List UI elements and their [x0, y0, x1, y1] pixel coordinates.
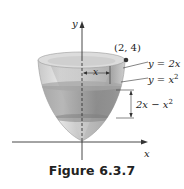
- point-2-4: [124, 58, 129, 63]
- height-label: 2x − x2: [136, 100, 173, 110]
- y-axis-arrow-icon: [80, 21, 85, 28]
- figure-caption: Figure 6.3.7: [0, 163, 184, 178]
- point-label: (2, 4): [114, 43, 141, 53]
- washer-band: [30, 81, 140, 122]
- leader-y-x2: [121, 78, 148, 82]
- radius-label: x: [93, 68, 98, 77]
- leader-y-2x: [123, 62, 148, 68]
- curve-label-y-x2: y = x2: [148, 75, 179, 85]
- figure-graphic: [0, 0, 184, 189]
- x-axis-arrow-icon: [141, 140, 148, 145]
- x-axis-label: x: [144, 149, 150, 159]
- y-axis-label: y: [72, 19, 78, 29]
- solid-of-revolution-figure: y x (2, 4) yy = = 2x y = x2 x 2x − x2 Fi…: [0, 0, 184, 189]
- curve-label-y-2x: yy = = 2x: [148, 59, 180, 69]
